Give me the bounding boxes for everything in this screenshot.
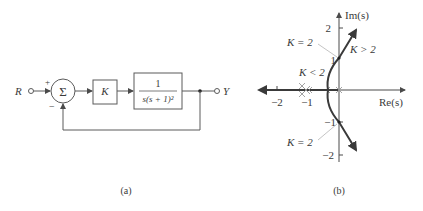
output-terminal	[215, 89, 220, 94]
root-locus-plot: Im(s) Re(s) 2 1 −1 −2 −2 −1	[259, 9, 405, 197]
caption-a: (a)	[120, 185, 131, 197]
block-diagram: R + − Σ K 1 s(s + 1)² Y (a)	[14, 73, 231, 197]
annotation-k-eq-2-lower: K = 2	[286, 136, 313, 148]
gain-label: K	[100, 85, 109, 97]
re-tick-label-neg2: −2	[271, 96, 283, 108]
annotation-k-lt-2: K < 2	[298, 66, 325, 78]
plant-numerator: 1	[156, 78, 161, 89]
output-label-y: Y	[223, 85, 231, 97]
caption-b: (b)	[333, 185, 345, 197]
re-axis-label: Re(s)	[379, 96, 403, 109]
input-terminal	[29, 89, 34, 94]
leader-line-upper	[318, 44, 337, 57]
minus-sign: −	[49, 101, 55, 112]
crossing-point-upper	[337, 56, 340, 59]
plant-denominator: s(s + 1)²	[143, 94, 174, 104]
input-label-r: R	[14, 85, 22, 97]
crossing-point-lower	[337, 120, 340, 123]
im-tick-label-neg2: −2	[322, 149, 334, 161]
sigma-symbol: Σ	[59, 84, 67, 99]
re-tick-label-neg1: −1	[301, 96, 313, 108]
im-tick-label-2: 2	[326, 22, 332, 34]
figure-canvas: R + − Σ K 1 s(s + 1)² Y (a) Im(s) Re(s) …	[0, 0, 423, 211]
annotation-k-gt-2: K > 2	[349, 43, 376, 55]
annotation-k-eq-2-upper: K = 2	[286, 36, 313, 48]
plus-sign: +	[45, 77, 50, 87]
im-axis-label: Im(s)	[345, 9, 369, 22]
